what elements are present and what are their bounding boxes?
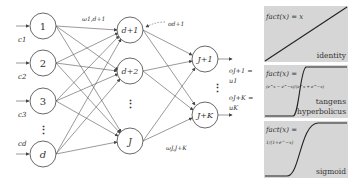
input-arrows <box>16 26 29 154</box>
svg-text:fact(x) =: fact(x) = <box>265 70 297 78</box>
dotted-arrow-icon <box>146 22 165 27</box>
svg-text:hyperbolicus: hyperbolicus <box>297 107 346 116</box>
input-node-d: d <box>30 141 56 167</box>
hidden-output-edges <box>143 30 195 141</box>
svg-text:1/(1+e^−x): 1/(1+e^−x) <box>266 140 294 145</box>
output-label-1a: oJ+1 = <box>229 67 253 75</box>
svg-text:fact(x) =: fact(x) = <box>265 126 297 134</box>
input-label-c2: c2 <box>18 73 27 81</box>
svg-text:d: d <box>40 149 46 160</box>
svg-text:J+1: J+1 <box>196 55 213 64</box>
hidden-ellipsis: ⋮ <box>125 98 136 111</box>
svg-text:d+2: d+2 <box>122 67 139 76</box>
hidden-node-d1: d+1 <box>117 17 143 43</box>
weight-label-bottom: ωJ,J+K <box>166 144 187 152</box>
output-node-jk: J+K <box>192 102 218 128</box>
output-label-1b: u1 <box>229 77 237 85</box>
sigmoid-panel: fact(x) = 1/(1+e^−x) sigmoid <box>264 121 348 178</box>
svg-text:(e^x − e^−x)/(e^x + e^−x): (e^x − e^−x)/(e^x + e^−x) <box>266 84 324 89</box>
neural-network-diagram: 1 2 3 ⋮ d c1 c2 c3 cd d+1 d+2 ⋮ J J+1 ⋮ … <box>0 0 362 183</box>
svg-text:J+K: J+K <box>195 111 214 120</box>
hidden-node-j: J <box>117 128 143 154</box>
input-label-c1: c1 <box>18 36 26 44</box>
svg-text:3: 3 <box>40 96 46 107</box>
weight-label-top: ω1,d+1 <box>82 15 105 22</box>
input-hidden-edges <box>56 26 121 154</box>
input-node-3: 3 <box>30 88 56 114</box>
svg-text:2: 2 <box>40 58 46 69</box>
input-node-2: 2 <box>30 50 56 76</box>
input-ellipsis: ⋮ <box>38 124 49 137</box>
output-label-2a: oJ+K = <box>229 94 253 102</box>
output-label-2b: uK <box>229 104 239 112</box>
output-node-j1: J+1 <box>192 46 218 72</box>
hidden-output-label: od+1 <box>168 20 184 27</box>
hidden-node-d2: d+2 <box>117 58 143 84</box>
svg-text:d+1: d+1 <box>122 26 139 35</box>
svg-text:1: 1 <box>40 21 46 32</box>
tanh-panel: fact(x) = (e^x − e^−x)/(e^x + e^−x) tang… <box>264 65 348 118</box>
input-label-c3: c3 <box>18 111 27 119</box>
input-node-1: 1 <box>30 13 56 39</box>
svg-text:sigmoid: sigmoid <box>316 167 346 176</box>
identity-panel: fact(x) = x identity <box>264 6 348 62</box>
svg-text:tangens: tangens <box>316 97 346 106</box>
svg-text:identity: identity <box>317 51 347 60</box>
svg-text:fact(x) = x: fact(x) = x <box>265 13 303 21</box>
input-label-cd: cd <box>18 140 27 148</box>
output-ellipsis: ⋮ <box>212 82 223 95</box>
